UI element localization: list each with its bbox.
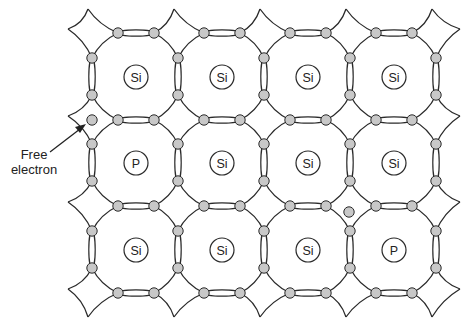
crystal-lattice-diagram: SiSiSiSiPSiSiSiSiSiSiP xyxy=(0,0,468,330)
bond-electron xyxy=(321,288,331,298)
bond-electron xyxy=(371,28,381,38)
bond-electron xyxy=(345,139,355,149)
bond-electron xyxy=(285,201,295,211)
lattice-curve xyxy=(432,9,460,29)
lattice-curve xyxy=(260,293,290,317)
atom-symbol: Si xyxy=(388,157,399,171)
lattice-curve xyxy=(68,9,88,29)
atom-si: Si xyxy=(124,65,148,89)
lattice-curve xyxy=(88,293,118,317)
bond-electron xyxy=(371,201,381,211)
bond-electron xyxy=(173,263,183,273)
bond-electron xyxy=(113,288,123,298)
bond-electron xyxy=(259,90,269,100)
atom-symbol: Si xyxy=(130,71,141,85)
bond-electron xyxy=(371,288,381,298)
atom-si: Si xyxy=(296,151,320,175)
bond-electron xyxy=(407,288,417,298)
atom-symbol: P xyxy=(390,244,398,258)
bond-electron xyxy=(321,201,331,211)
bond-electron xyxy=(87,90,97,100)
bond-electron xyxy=(345,90,355,100)
bond-electron xyxy=(259,263,269,273)
bond-electron xyxy=(285,115,295,125)
bond-electron xyxy=(431,139,441,149)
bond-electron xyxy=(173,53,183,63)
atom-si: Si xyxy=(210,151,234,175)
bond-electron xyxy=(149,115,159,125)
bond-electron xyxy=(431,226,441,236)
bond-electron xyxy=(87,176,97,186)
bond-electron xyxy=(199,28,209,38)
free-electron-label-line2: electron xyxy=(2,162,66,177)
bond-electron xyxy=(87,53,97,63)
bond-electron xyxy=(371,115,381,125)
lattice-curve xyxy=(88,9,118,33)
atom-si: Si xyxy=(382,65,406,89)
atom-p: P xyxy=(382,238,406,262)
bond-electron xyxy=(321,115,331,125)
bond-electron xyxy=(87,263,97,273)
atom-symbol: Si xyxy=(388,71,399,85)
bond-electron xyxy=(199,115,209,125)
lattice-curve xyxy=(174,9,204,33)
bond-electron xyxy=(407,115,417,125)
bond-electron xyxy=(87,139,97,149)
atom-si: Si xyxy=(210,65,234,89)
atom-si: Si xyxy=(296,238,320,262)
bond-electron xyxy=(431,53,441,63)
bond-electron xyxy=(345,53,355,63)
bond-electron xyxy=(113,115,123,125)
bond-electron xyxy=(149,28,159,38)
bond-electron xyxy=(149,201,159,211)
lattice-curve xyxy=(346,9,376,33)
bond-electron xyxy=(407,28,417,38)
bond-electron xyxy=(113,28,123,38)
atom-si: Si xyxy=(382,151,406,175)
bond-electron xyxy=(407,201,417,211)
bond-electron xyxy=(345,176,355,186)
atom-symbol: Si xyxy=(302,157,313,171)
atom-symbol: Si xyxy=(216,71,227,85)
bond-electron xyxy=(431,263,441,273)
atom-symbol: Si xyxy=(302,71,313,85)
free-electron-label-line1: Free xyxy=(2,147,66,162)
bond-electron xyxy=(345,226,355,236)
bond-electron xyxy=(199,201,209,211)
bond-electron xyxy=(173,90,183,100)
atom-symbol: Si xyxy=(216,244,227,258)
atom-symbol: Si xyxy=(302,244,313,258)
bond-electron xyxy=(173,226,183,236)
bond-electron xyxy=(285,288,295,298)
bond-electron xyxy=(285,28,295,38)
lattice-curve xyxy=(432,289,460,317)
bond-electron xyxy=(259,53,269,63)
bond-electron xyxy=(113,201,123,211)
bond-electron xyxy=(235,201,245,211)
bond-electron xyxy=(431,90,441,100)
bond-electron xyxy=(149,288,159,298)
lattice-curve xyxy=(68,289,88,317)
atom-si: Si xyxy=(210,238,234,262)
bond-electron xyxy=(259,176,269,186)
atom-symbol: P xyxy=(132,157,140,171)
free-electron xyxy=(344,207,354,217)
bond-electron xyxy=(259,139,269,149)
bond-electron xyxy=(431,176,441,186)
atom-p: P xyxy=(124,151,148,175)
bond-electron xyxy=(345,263,355,273)
atom-symbol: Si xyxy=(216,157,227,171)
lattice-curve xyxy=(346,293,376,317)
bond-electron xyxy=(235,288,245,298)
lattice-curve xyxy=(260,9,290,33)
atom-si: Si xyxy=(124,238,148,262)
bond-electron xyxy=(235,115,245,125)
bond-electron xyxy=(173,176,183,186)
bond-electron xyxy=(259,226,269,236)
bond-electron xyxy=(321,28,331,38)
bond-electron xyxy=(173,139,183,149)
free-electron-label: Free electron xyxy=(2,147,66,177)
bond-electron xyxy=(87,226,97,236)
atom-symbol: Si xyxy=(130,244,141,258)
lattice-curve xyxy=(174,293,204,317)
